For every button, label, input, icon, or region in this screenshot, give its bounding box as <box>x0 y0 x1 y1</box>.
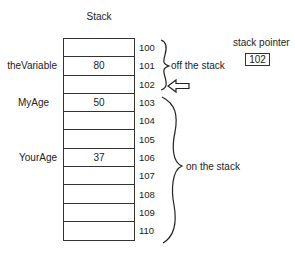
curly-brace-icon <box>161 40 169 90</box>
curly-brace-icon <box>162 97 182 243</box>
hollow-left-arrow-icon <box>168 80 189 92</box>
diagram-graphics <box>0 0 295 255</box>
